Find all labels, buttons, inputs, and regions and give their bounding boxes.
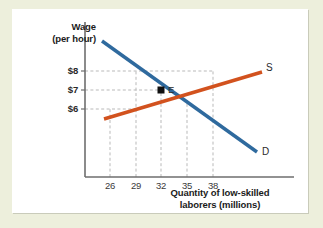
- x-tick-label-35: 35: [176, 180, 198, 191]
- x-tick-label-26: 26: [99, 180, 121, 191]
- equilibrium-point-marker: [158, 87, 165, 94]
- y-axis-title-line1: Wage: [18, 21, 96, 33]
- x-tick-label-32: 32: [150, 180, 172, 191]
- figure-card: Wage (per hour) Quantity of low-skilled …: [12, 9, 308, 213]
- y-tick-label-7: $7: [52, 84, 78, 95]
- supply-curve-label: S: [266, 62, 273, 73]
- grid-lines: [85, 71, 213, 177]
- y-axis-title-line2: (per hour): [18, 33, 96, 45]
- equilibrium-point-label: E: [168, 84, 174, 95]
- y-tick-label-6: $6: [52, 103, 78, 114]
- x-tick-label-29: 29: [125, 180, 147, 191]
- x-axis-title-line2: laborers (millions): [140, 199, 300, 211]
- supply-curve: [104, 72, 262, 119]
- y-axis-title: Wage (per hour): [18, 21, 96, 44]
- y-tick-label-8: $8: [52, 65, 78, 76]
- x-tick-label-38: 38: [202, 180, 224, 191]
- demand-curve-label: D: [262, 146, 269, 157]
